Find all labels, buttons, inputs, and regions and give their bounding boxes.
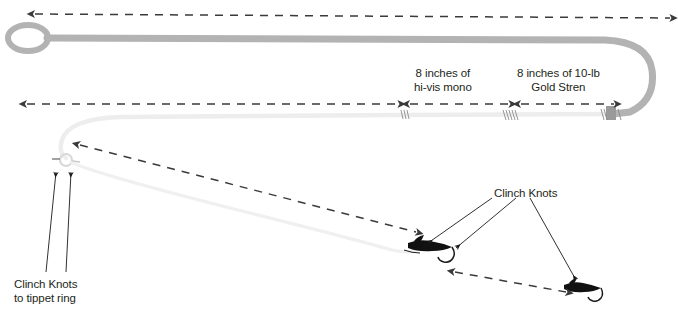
tippet-span-arrow <box>80 145 416 232</box>
label-gold-stren: 8 inches of 10-lb Gold Stren <box>517 66 600 94</box>
callout-fly-upper-b <box>456 198 516 248</box>
label-clinch-knots-left-line1: Clinch Knots <box>14 277 77 291</box>
fly-line-span-arrow <box>35 14 670 18</box>
dropper-span-arrow <box>455 272 566 292</box>
artificial-fly <box>564 278 603 301</box>
blood-knot <box>401 110 409 119</box>
callout-fly-lower <box>530 198 576 280</box>
leader-line <box>61 114 612 158</box>
tippet-line <box>72 163 414 252</box>
leader-rig-diagram: 8 inches of hi-vis mono 8 inches of 10-l… <box>0 0 678 319</box>
label-hi-vis-mono-line2: hi-vis mono <box>414 80 472 94</box>
callout-fly-upper-a <box>428 198 492 243</box>
label-hi-vis-mono: 8 inches of hi-vis mono <box>414 66 472 94</box>
label-clinch-knots-tippet-ring: Clinch Knots to tippet ring <box>14 277 77 305</box>
label-hi-vis-mono-line1: 8 inches of <box>414 66 472 80</box>
leader-group <box>61 106 621 158</box>
welded-loop <box>8 25 48 51</box>
label-clinch-knots-right: Clinch Knots <box>494 186 557 200</box>
artificial-fly <box>404 235 454 262</box>
callout-tippet-ring-b <box>66 172 71 272</box>
callout-tippet-ring-a <box>46 172 56 272</box>
tippet-line-group <box>72 163 414 252</box>
label-gold-stren-line2: Gold Stren <box>517 80 600 94</box>
label-clinch-knots-left-line2: to tippet ring <box>14 291 77 305</box>
label-clinch-knots-right-line1: Clinch Knots <box>494 186 557 200</box>
diagram-canvas <box>0 0 678 319</box>
label-gold-stren-line1: 8 inches of 10-lb <box>517 66 600 80</box>
